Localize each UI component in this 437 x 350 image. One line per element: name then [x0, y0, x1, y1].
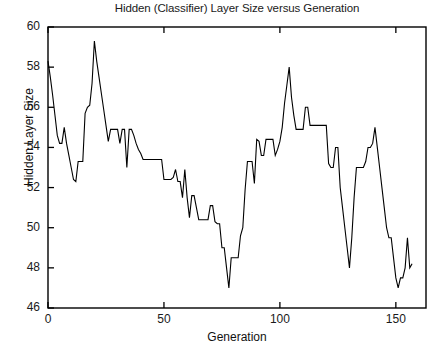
y-tick-label: 58	[6, 59, 40, 73]
x-axis-label: Generation	[48, 330, 426, 344]
y-tick-label: 54	[6, 139, 40, 153]
x-tick-label: 0	[28, 312, 68, 326]
y-tick-label: 56	[6, 99, 40, 113]
axis-ticks	[48, 27, 396, 308]
plot-border	[48, 27, 426, 308]
y-tick-label: 50	[6, 220, 40, 234]
x-tick-label: 100	[260, 312, 300, 326]
plot-area	[0, 0, 437, 350]
y-tick-label: 52	[6, 180, 40, 194]
data-series-layer	[48, 41, 412, 288]
chart-title: Hidden (Classifier) Layer Size versus Ge…	[48, 2, 426, 14]
y-tick-label: 48	[6, 260, 40, 274]
series-line-hidden-layer-size	[48, 41, 412, 288]
chart-figure: Hidden (Classifier) Layer Size versus Ge…	[0, 0, 437, 350]
x-tick-label: 150	[376, 312, 416, 326]
y-tick-label: 60	[6, 19, 40, 33]
x-tick-label: 50	[144, 312, 184, 326]
axis-frame	[48, 27, 426, 308]
